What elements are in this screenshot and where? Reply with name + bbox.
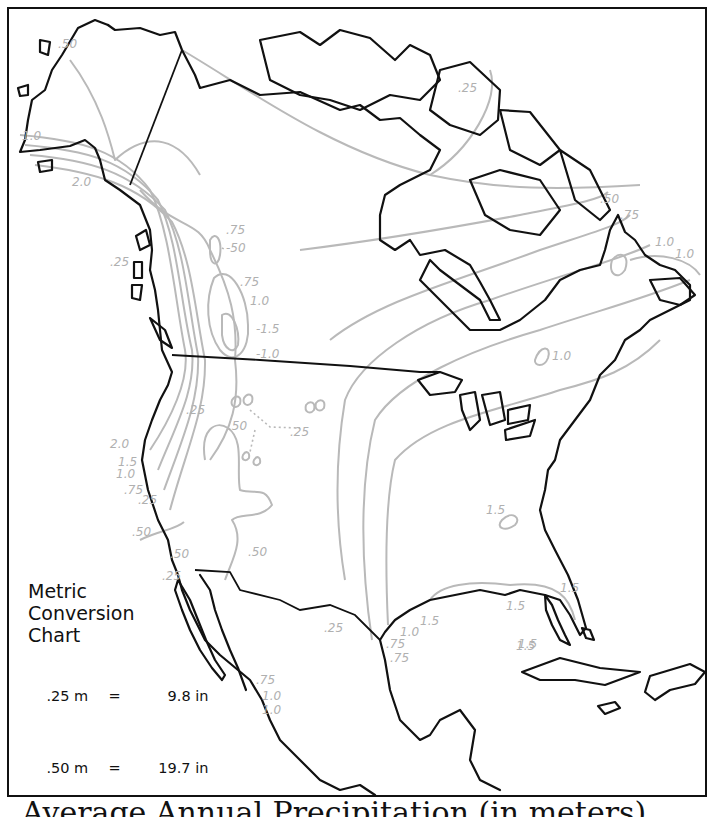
contour-label: 2.0 [72,175,91,189]
contour-label: .25 [324,621,343,635]
legend-meters: .25 m [46,684,108,708]
contour-lines [20,50,700,640]
contour-label: .75 [390,651,409,665]
contour-label: 2.0 [110,437,129,451]
contour-label: .75 [256,673,275,687]
legend-meters: .50 m [46,756,108,780]
contour-label: .50 [248,545,267,559]
contour-label: .25 [138,493,157,507]
contour-label: .25 [458,81,477,95]
contour-label: 1.0 [22,129,41,143]
contour-label: 1.0 [655,235,674,249]
contour-label: 1.0 [262,703,281,717]
contour-label: 1.0 [675,247,694,261]
metric-conversion-legend: Metric Conversion Chart .25 m=9.8 in .50… [28,580,228,817]
contour-label: .25 [110,255,129,269]
contour-label: .75 [240,275,259,289]
contour-label: .50 [170,547,189,561]
contour-label: .50 [132,525,151,539]
legend-title-line: Metric [28,580,228,602]
contour-label: 1.5 [486,503,505,517]
contour-label: -50 [226,241,246,255]
contour-label: .75 [226,223,245,237]
contour-label: -1.0 [256,347,280,361]
legend-title-line: Chart [28,624,228,646]
legend-title-line: Conversion [28,602,228,624]
contour-label: 1.5 [516,639,535,653]
legend-row: .25 m=9.8 in [28,660,228,732]
contour-label: .75 [620,208,639,222]
legend-equals: = [108,684,130,708]
contour-label: .50 [58,37,77,51]
contour-label: .50 [600,192,619,206]
contour-label: 1.5 [560,581,579,595]
contour-label: 1.5 [506,599,525,613]
legend-inches: 9.8 in [130,684,208,708]
legend-inches: 19.7 in [130,756,208,780]
contour-label: 1.0 [552,349,571,363]
contour-label: 1.5 [420,614,439,628]
contour-label: 1.0 [262,689,281,703]
contour-label: .75 [386,637,405,651]
legend-equals: = [108,756,130,780]
contour-label: 1.0 [116,467,135,481]
contour-label: .25 [290,425,309,439]
contour-label: -1.5 [256,322,279,336]
contour-label: .50 [228,419,247,433]
contour-label: .25 [186,403,205,417]
map-caption: Average Annual Precipitation (in meters) [22,796,646,817]
legend-title: Metric Conversion Chart [28,580,228,646]
contour-label: 1.0 [250,294,269,308]
legend-row: .50 m=19.7 in [28,732,228,804]
